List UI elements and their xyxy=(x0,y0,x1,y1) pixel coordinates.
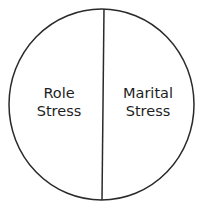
segment-label-line1: Marital xyxy=(108,84,188,102)
segment-label-marital-stress: Marital Stress xyxy=(108,84,188,120)
segment-label-line2: Stress xyxy=(19,102,99,120)
divider-line xyxy=(102,9,104,200)
segment-label-role-stress: Role Stress xyxy=(19,84,99,120)
segment-label-line2: Stress xyxy=(108,102,188,120)
segment-label-line1: Role xyxy=(19,84,99,102)
